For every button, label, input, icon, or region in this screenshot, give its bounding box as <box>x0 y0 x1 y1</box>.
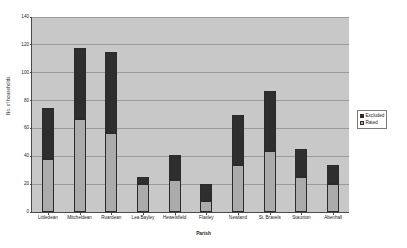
y-axis-tick-mark <box>30 72 32 73</box>
x-axis-tick-label: Mitcheldean <box>67 216 92 221</box>
bar-segment-rated[interactable] <box>169 180 181 212</box>
bar-segment-rated[interactable] <box>200 201 212 212</box>
chart-legend: Excluded Rated <box>357 110 387 129</box>
legend-label-rated: Rated <box>366 121 378 126</box>
x-axis-tick-label: Abenhall <box>324 216 342 221</box>
bar-segment-rated[interactable] <box>74 119 86 212</box>
y-axis-tick-mark <box>30 212 32 213</box>
bar-segment-excluded[interactable] <box>169 155 181 180</box>
x-axis-tick-label: Staunton <box>292 216 310 221</box>
x-axis-title: Parish <box>0 231 407 236</box>
legend-item-excluded[interactable]: Excluded <box>360 113 384 120</box>
x-axis-tick-label: Hewelsfield <box>163 216 187 221</box>
bar-segment-excluded[interactable] <box>264 91 276 151</box>
bar-segment-excluded[interactable] <box>105 52 117 133</box>
bar-segment-rated[interactable] <box>42 159 54 212</box>
y-axis-tick-mark <box>30 156 32 157</box>
y-axis-tick-label: 140 <box>21 15 29 20</box>
x-axis-tick-label: Lea Bayley <box>132 216 155 221</box>
y-axis-tick-mark <box>30 17 32 18</box>
y-axis-tick-label: 80 <box>24 98 29 103</box>
y-axis-tick-label: 100 <box>21 70 29 75</box>
legend-label-excluded: Excluded <box>366 114 385 119</box>
bar-group[interactable] <box>200 17 212 212</box>
bar-group[interactable] <box>169 17 181 212</box>
y-axis-title: No. of households <box>6 76 11 115</box>
y-axis-tick-mark <box>30 100 32 101</box>
bar-segment-excluded[interactable] <box>327 165 339 185</box>
y-axis-tick-label: 40 <box>24 154 29 159</box>
stacked-bar-chart: No. of households 020406080100120140Litt… <box>0 0 407 248</box>
x-axis-tick-label: Ruardean <box>101 216 121 221</box>
y-axis-tick-label: 20 <box>24 182 29 187</box>
bar-group[interactable] <box>137 17 149 212</box>
bar-group[interactable] <box>105 17 117 212</box>
bar-segment-excluded[interactable] <box>137 177 149 184</box>
bar-segment-excluded[interactable] <box>42 108 54 160</box>
bar-segment-rated[interactable] <box>232 165 244 212</box>
y-axis-tick-mark <box>30 128 32 129</box>
bar-segment-rated[interactable] <box>295 177 307 212</box>
bar-segment-rated[interactable] <box>264 151 276 212</box>
x-axis-tick-label: Flaxley <box>199 216 214 221</box>
bar-group[interactable] <box>295 17 307 212</box>
x-axis-tick-label: St. Bravels <box>259 216 281 221</box>
legend-item-rated[interactable]: Rated <box>360 120 384 127</box>
bar-segment-rated[interactable] <box>105 133 117 212</box>
bar-group[interactable] <box>232 17 244 212</box>
y-axis-tick-mark <box>30 184 32 185</box>
y-axis-tick-mark <box>30 44 32 45</box>
bar-segment-excluded[interactable] <box>232 115 244 165</box>
plot-area: 020406080100120140LittledeanMitcheldeanR… <box>31 17 349 213</box>
bar-segment-rated[interactable] <box>137 184 149 212</box>
bar-segment-excluded[interactable] <box>200 184 212 201</box>
bar-segment-excluded[interactable] <box>74 48 86 119</box>
y-axis-tick-label: 120 <box>21 43 29 48</box>
bar-group[interactable] <box>264 17 276 212</box>
bar-segment-rated[interactable] <box>327 184 339 212</box>
y-axis-tick-label: 0 <box>26 210 29 215</box>
bar-group[interactable] <box>42 17 54 212</box>
legend-swatch-excluded-icon <box>360 114 364 118</box>
x-axis-tick-label: Newland <box>229 216 247 221</box>
bar-group[interactable] <box>327 17 339 212</box>
y-axis-tick-label: 60 <box>24 126 29 131</box>
bar-segment-excluded[interactable] <box>295 149 307 177</box>
x-axis-tick-label: Littledean <box>38 216 58 221</box>
bar-group[interactable] <box>74 17 86 212</box>
legend-swatch-rated-icon <box>360 121 364 125</box>
